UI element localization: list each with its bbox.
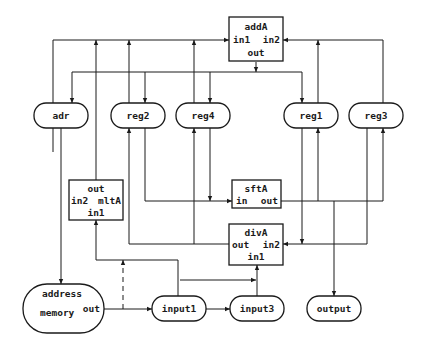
- divA-out: out: [232, 239, 249, 250]
- input1-label: input1: [162, 303, 197, 314]
- reg1-label: reg1: [300, 110, 323, 121]
- register-output: output: [307, 296, 361, 321]
- register-input1: input1: [152, 296, 206, 321]
- mltA-in1: in1: [87, 207, 104, 218]
- addA-name: addA: [245, 21, 268, 32]
- divA-in2: in2: [263, 239, 280, 250]
- reg4-label: reg4: [192, 110, 215, 121]
- wire-input1-to-mltA: [96, 220, 178, 296]
- mltA-out: out: [87, 183, 104, 194]
- unit-mltA: out in2 mltA in1: [69, 180, 123, 220]
- sftA-out: out: [261, 195, 278, 206]
- mltA-in2: in2: [71, 195, 88, 206]
- memory-out: out: [83, 303, 100, 314]
- output-label: output: [317, 303, 351, 314]
- wire-reg2-to-sftA: [145, 128, 232, 201]
- unit-addA: addA in1 in2 out: [229, 17, 283, 61]
- wires: [53, 40, 383, 309]
- register-reg2: reg2: [111, 103, 165, 128]
- adr-label: adr: [52, 110, 69, 121]
- reg2-label: reg2: [127, 110, 150, 121]
- wire-addA-out-bus: [72, 72, 302, 103]
- divA-in1: in1: [247, 251, 264, 262]
- sftA-name: sftA: [245, 183, 268, 194]
- unit-divA: divA out in2 in1: [229, 224, 283, 265]
- mltA-name: mltA: [98, 195, 121, 206]
- register-reg3: reg3: [349, 103, 403, 128]
- register-reg4: reg4: [176, 103, 230, 128]
- addA-out: out: [247, 47, 264, 58]
- wire-adr-to-addA: [53, 40, 229, 152]
- wire-sftA-out-to-reg3: [281, 128, 383, 201]
- memory-name: memory: [40, 307, 75, 318]
- addA-in2: in2: [263, 34, 280, 45]
- reg3-label: reg3: [365, 110, 388, 121]
- register-adr: adr: [34, 103, 88, 128]
- unit-sftA: sftA in out: [232, 180, 281, 208]
- divA-name: divA: [245, 227, 268, 238]
- addA-in1: in1: [233, 34, 250, 45]
- memory-address: address: [42, 288, 82, 299]
- sftA-in: in: [236, 195, 247, 206]
- input3-label: input3: [240, 303, 275, 314]
- wire-reg3-to-divA-in2: [283, 128, 367, 244]
- memory-block: address memory out: [23, 284, 104, 333]
- datapath-diagram: addA in1 in2 out out in2 mltA in1 sftA i…: [0, 0, 424, 349]
- register-input3: input3: [230, 296, 284, 321]
- register-reg1: reg1: [284, 103, 338, 128]
